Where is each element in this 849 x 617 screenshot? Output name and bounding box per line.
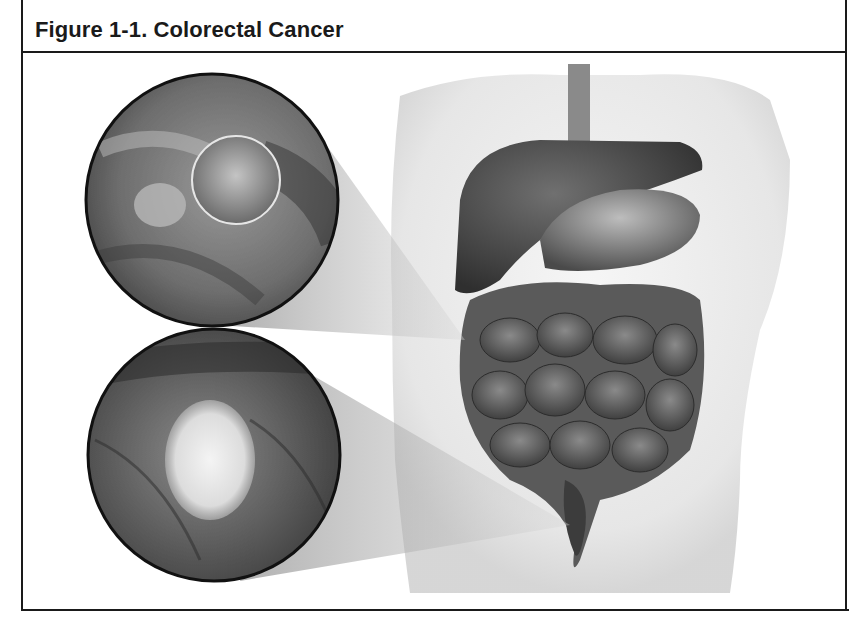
inset-tumor xyxy=(88,329,340,581)
figure-header: Figure 1-1. Colorectal Cancer xyxy=(21,0,847,52)
small-intestine xyxy=(472,313,697,472)
footer-divider xyxy=(21,609,849,611)
inset-polyp xyxy=(86,74,340,326)
anatomy-illustration xyxy=(23,53,845,609)
esophagus xyxy=(568,64,590,146)
figure-title: Figure 1-1. Colorectal Cancer xyxy=(35,17,344,43)
